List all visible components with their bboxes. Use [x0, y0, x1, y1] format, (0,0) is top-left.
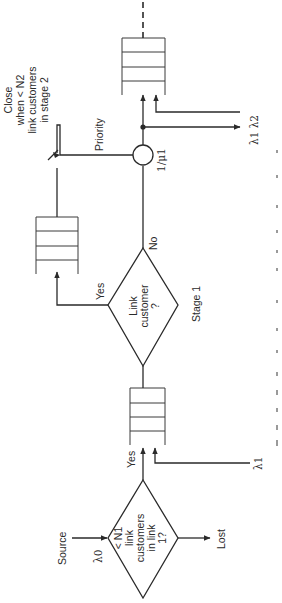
server-circle — [133, 145, 153, 165]
figure-caption-illegible — [276, 150, 278, 446]
svg-text:?: ? — [149, 303, 161, 309]
svg-text:1?: 1? — [156, 532, 168, 544]
queue-2 — [36, 217, 78, 274]
decision-1-text: < N1 link customers in link 1? — [112, 514, 168, 562]
source-label: Source — [56, 532, 68, 565]
queue-3 — [122, 38, 165, 95]
svg-text:link customers: link customers — [26, 66, 38, 133]
no-label: No — [147, 236, 159, 250]
queue-1 — [130, 388, 165, 445]
stage-1-label: Stage 1 — [190, 286, 202, 322]
priority-label: Priority — [93, 118, 105, 151]
svg-text:in stage 2: in stage 2 — [38, 77, 50, 123]
input-line-lambda1-to-queue-3 — [156, 95, 240, 112]
svg-text:Close: Close — [2, 86, 14, 113]
output-rates-label: λ1 λ2 — [248, 115, 260, 145]
svg-text:when < N2: when < N2 — [14, 75, 26, 127]
source-rate-label: λ0 — [92, 550, 104, 563]
queueing-flow-diagram: Source λ0 < N1 link customers in link 1?… — [0, 0, 282, 603]
server-rate-label: 1/μ1 — [155, 148, 167, 172]
lost-label: Lost — [215, 529, 227, 549]
lambda1-input-arrow — [155, 448, 250, 463]
switch-note: Close when < N2 link customers in stage … — [2, 66, 50, 133]
lambda1-input-label: λ1 — [252, 457, 264, 470]
yes-label-1: Yes — [125, 451, 137, 468]
yes-label-2: Yes — [94, 283, 106, 300]
gate-switch-icon — [48, 150, 60, 160]
decision-2-text: Link customer ? — [127, 284, 161, 328]
